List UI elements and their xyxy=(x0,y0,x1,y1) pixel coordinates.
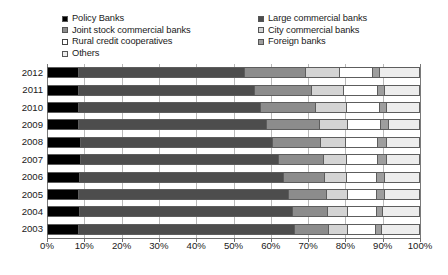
legend-item-large[interactable]: Large commercial banks xyxy=(258,13,438,25)
bar-row xyxy=(47,137,420,148)
legend-item-rural[interactable]: Rural credit cooperatives xyxy=(62,36,262,48)
legend-swatch-icon xyxy=(258,16,264,22)
bar-segment-large xyxy=(78,190,287,199)
y-axis-tick-label: 2012 xyxy=(0,67,43,78)
bar-row xyxy=(47,189,420,200)
x-axis-tick xyxy=(196,238,197,242)
bar-segment-rural xyxy=(345,138,377,147)
bar-segment-policy xyxy=(48,86,78,95)
y-axis-tick-label: 2010 xyxy=(0,102,43,113)
legend-swatch-icon xyxy=(258,27,264,33)
legend-item-label: Policy Banks xyxy=(72,13,124,25)
bar-row xyxy=(47,154,420,165)
bar-segment-rural xyxy=(347,120,380,129)
bar-segment-large xyxy=(79,207,292,216)
bar-segment-others xyxy=(386,155,419,164)
x-axis-tick xyxy=(383,238,384,242)
bar-segment-policy xyxy=(48,103,78,112)
x-axis-tick xyxy=(420,238,421,242)
legend-swatch-icon xyxy=(62,51,68,57)
x-axis-tick xyxy=(308,238,309,242)
bar-segment-others xyxy=(384,173,419,182)
legend-item-foreign[interactable]: Foreign banks xyxy=(258,36,438,48)
gridline xyxy=(420,64,421,238)
bar-segment-joint_stock xyxy=(288,190,326,199)
legend-swatch-icon xyxy=(62,16,68,22)
x-axis-tick xyxy=(47,238,48,242)
chart-legend: Policy BanksJoint stock commercial banks… xyxy=(62,13,434,60)
stacked-bar-chart: Policy BanksJoint stock commercial banks… xyxy=(0,0,448,275)
stacked-bar xyxy=(47,154,420,165)
x-axis-tick xyxy=(159,238,160,242)
bar-segment-foreign xyxy=(372,68,379,77)
y-axis-tick-label: 2007 xyxy=(0,154,43,165)
stacked-bar xyxy=(47,172,420,183)
legend-swatch-icon xyxy=(62,27,68,33)
bar-segment-joint_stock xyxy=(278,155,323,164)
x-axis-tick xyxy=(122,238,123,242)
bar-segment-others xyxy=(386,138,419,147)
legend-item-joint_stock[interactable]: Joint stock commercial banks xyxy=(62,25,262,37)
legend-item-label: City commercial banks xyxy=(268,25,359,37)
bar-segment-others xyxy=(381,225,419,234)
bar-segment-policy xyxy=(48,68,78,77)
y-axis-tick-label: 2006 xyxy=(0,171,43,182)
bar-segment-others xyxy=(388,120,419,129)
bar-row xyxy=(47,224,420,235)
legend-column-right: Large commercial banksCity commercial ba… xyxy=(258,13,438,48)
bar-segment-joint_stock xyxy=(283,173,324,182)
bar-segment-others xyxy=(386,103,419,112)
stacked-bar xyxy=(47,189,420,200)
bar-row xyxy=(47,67,420,78)
bar-segment-policy xyxy=(48,173,79,182)
bar-segment-large xyxy=(79,173,283,182)
y-axis-tick-label: 2011 xyxy=(0,84,43,95)
bar-segment-rural xyxy=(347,190,377,199)
bar-row xyxy=(47,102,420,113)
bar-row xyxy=(47,85,420,96)
bar-segment-foreign xyxy=(377,86,384,95)
y-axis-labels: 2012201120102009200820072006200520042003 xyxy=(0,64,43,238)
bar-segment-others xyxy=(384,190,419,199)
bar-segment-city xyxy=(323,155,347,164)
bar-segment-joint_stock xyxy=(266,120,319,129)
bar-segment-rural xyxy=(347,207,376,216)
x-axis-labels: 0%10%20%30%40%50%60%70%80%90%100% xyxy=(47,240,420,254)
x-axis-tick xyxy=(84,238,85,242)
legend-column-left: Policy BanksJoint stock commercial banks… xyxy=(62,13,262,59)
legend-item-city[interactable]: City commercial banks xyxy=(258,25,438,37)
legend-item-label: Foreign banks xyxy=(268,36,326,48)
bar-segment-city xyxy=(324,173,346,182)
stacked-bar xyxy=(47,85,420,96)
legend-swatch-icon xyxy=(62,39,68,45)
legend-swatch-icon xyxy=(258,39,264,45)
stacked-bar xyxy=(47,206,420,217)
bar-segment-city xyxy=(327,207,347,216)
stacked-bar xyxy=(47,224,420,235)
bar-segment-joint_stock xyxy=(294,225,328,234)
bar-segment-city xyxy=(311,86,343,95)
bar-segment-others xyxy=(379,68,419,77)
bar-segment-policy xyxy=(48,120,78,129)
bar-segment-rural xyxy=(343,86,377,95)
bar-row xyxy=(47,206,420,217)
bar-segment-city xyxy=(305,68,339,77)
bar-segment-joint_stock xyxy=(244,68,305,77)
bar-segment-foreign xyxy=(376,173,384,182)
bar-segment-city xyxy=(328,225,347,234)
stacked-bar xyxy=(47,102,420,113)
bar-segment-joint_stock xyxy=(272,138,320,147)
legend-item-policy[interactable]: Policy Banks xyxy=(62,13,262,25)
bar-segment-foreign xyxy=(376,190,383,199)
legend-item-others[interactable]: Others xyxy=(62,48,262,60)
bar-segment-policy xyxy=(48,225,78,234)
x-axis-tick xyxy=(345,238,346,242)
bar-segment-city xyxy=(320,138,345,147)
bar-segment-policy xyxy=(48,155,80,164)
bar-segment-large xyxy=(80,155,278,164)
bar-segment-foreign xyxy=(377,138,386,147)
x-axis-tick xyxy=(234,238,235,242)
y-axis-tick-label: 2008 xyxy=(0,136,43,147)
bar-segment-others xyxy=(384,86,419,95)
legend-item-label: Joint stock commercial banks xyxy=(72,25,191,37)
